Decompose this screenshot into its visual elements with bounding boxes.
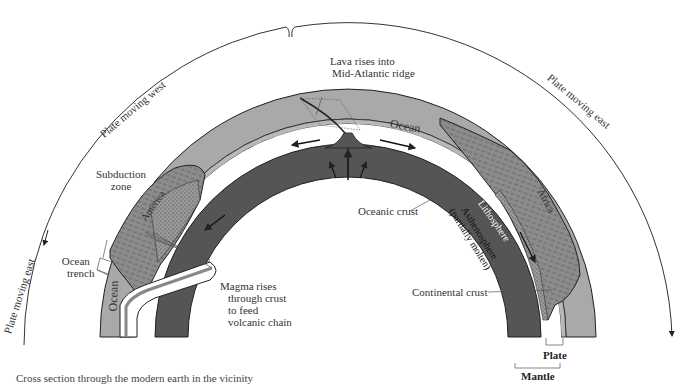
figure-caption: Cross section through the modern earth i… xyxy=(16,372,253,384)
label-continental-crust: Continental crust xyxy=(412,286,487,298)
label-oceanic-crust: Oceanic crust xyxy=(358,205,418,217)
label-subduction-zone: Subduction zone xyxy=(96,168,146,192)
label-ocean-left: Ocean xyxy=(107,280,120,311)
label-ocean-trench: Ocean trench xyxy=(57,255,94,279)
label-mantle: Mantle xyxy=(521,370,555,382)
label-magma-rises: Magma rises through crust to feed volcan… xyxy=(220,280,292,328)
label-plate: Plate xyxy=(543,349,567,361)
label-lava-rises: Lava rises into Mid-Atlantic ridge xyxy=(330,55,415,79)
